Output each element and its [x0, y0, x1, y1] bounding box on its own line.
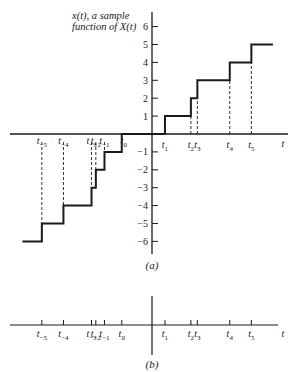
y-tick-label: 3 [143, 75, 148, 86]
time-label-t-1: t−1 [99, 135, 110, 149]
y-tick-label: 4 [143, 57, 148, 68]
y-tick-label: 2 [143, 93, 148, 104]
y-tick-label: −2 [137, 164, 148, 175]
panel-b: t−5t−4t−3t−2t−1t0t1t2t3t4t5t (b) [10, 296, 285, 371]
panel-a: x(t), a sample function of X(t) −6−5−4−3… [10, 10, 288, 272]
y-tick-label: 6 [143, 21, 148, 32]
event-label-t0: t0 [119, 328, 126, 342]
event-label-t4: t4 [227, 328, 234, 342]
y-tick-label: −4 [137, 200, 148, 211]
panel-b-time-labels: t−5t−4t−3t−2t−1t0t1t2t3t4t5t [37, 328, 285, 342]
annotation-line-2: function of X(t) [72, 21, 137, 33]
x-axis-label-t: t [282, 138, 285, 149]
event-label-t3: t3 [194, 328, 201, 342]
time-axis-label-t: t [282, 328, 285, 339]
time-label-t5: t5 [248, 139, 255, 153]
caption-a: (a) [146, 259, 159, 272]
time-label-t1: t1 [162, 139, 169, 153]
event-label-t5: t5 [248, 328, 255, 342]
panel-b-axes [10, 296, 278, 355]
time-label-t-4: t−4 [58, 135, 69, 149]
time-label-t3: t3 [194, 139, 201, 153]
event-label-t-1: t−1 [99, 328, 110, 342]
y-tick-label: −5 [137, 218, 148, 229]
time-label-t4: t4 [227, 139, 234, 153]
y-tick-label: −3 [137, 182, 148, 193]
event-label-t1: t1 [162, 328, 169, 342]
y-tick-label: 5 [143, 39, 148, 50]
y-tick-label: 1 [143, 111, 148, 122]
y-tick-label: −6 [137, 236, 148, 247]
event-label-t-4: t−4 [58, 328, 69, 342]
y-tick-label: −1 [137, 146, 148, 157]
caption-b: (b) [146, 358, 159, 371]
poisson-counting-figure: x(t), a sample function of X(t) −6−5−4−3… [0, 0, 298, 372]
event-label-t-5: t−5 [37, 328, 48, 342]
time-label-t-5: t−5 [37, 135, 48, 149]
